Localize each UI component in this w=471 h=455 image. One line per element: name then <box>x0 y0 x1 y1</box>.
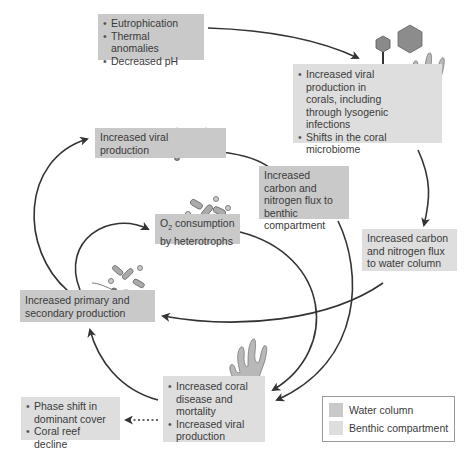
legend: Water column Benthic compartment <box>322 396 455 442</box>
legend-item-water: Water column <box>329 403 413 417</box>
viral-production-label: Increased viral production <box>100 131 172 156</box>
box-flux-benthic: Increased carbon and nitrogen flux to be… <box>259 166 349 219</box>
coral-disease-viral: Increased viral production <box>168 418 248 443</box>
arrow-coral-disease-to-primary <box>90 330 158 400</box>
arrow-drivers-to-coral <box>208 28 358 58</box>
box-drivers: Eutrophication Thermal anomalies Decreas… <box>98 14 204 60</box>
box-flux-water: Increased carbon and nitrogen flux to wa… <box>362 229 457 271</box>
box-coral-disease: Increased coral disease and mortality In… <box>163 376 265 442</box>
diagram-canvas: Eutrophication Thermal anomalies Decreas… <box>0 0 471 455</box>
primary-secondary-label: Increased primary and secondary producti… <box>25 294 150 319</box>
legend-swatch-benthic <box>329 421 343 435</box>
coral-response-viral: Increased viral production in corals, in… <box>298 68 396 131</box>
legend-label-benthic: Benthic compartment <box>349 422 448 434</box>
legend-swatch-water <box>329 403 343 417</box>
coral-disease-mortality: Increased coral disease and mortality <box>168 380 248 418</box>
box-primary-secondary: Increased primary and secondary producti… <box>20 290 155 322</box>
legend-label-water: Water column <box>349 404 413 416</box>
outcome-reef-decline: Coral reef decline <box>26 425 115 450</box>
box-outcome: Phase shift in dominant cover Coral reef… <box>21 397 120 440</box>
flux-benthic-label: Increased carbon and nitrogen flux to be… <box>264 169 344 232</box>
arrow-flux-benthic-to-coral-disease <box>277 221 352 400</box>
coral-response-microbiome: Shifts in the coral microbiome <box>298 131 396 156</box>
driver-thermal-anomalies: Thermal anomalies <box>103 30 199 55</box>
box-viral-production: Increased viral production <box>95 128 226 158</box>
arrow-primary-to-viral <box>34 139 87 291</box>
virus-capsid-icon <box>398 25 422 53</box>
box-o2-consumption: O2 consumption by heterotrophs <box>155 214 240 244</box>
box-coral-response: Increased viral production in corals, in… <box>293 64 442 143</box>
o2-consumption-label: O2 consumption by heterotrophs <box>160 217 235 247</box>
legend-item-benthic: Benthic compartment <box>329 421 448 435</box>
arrow-flux-water-to-primary <box>163 283 383 322</box>
flux-water-label: Increased carbon and nitrogen flux to wa… <box>367 232 452 270</box>
driver-decreased-ph: Decreased pH <box>103 55 199 68</box>
outcome-phase-shift: Phase shift in dominant cover <box>26 400 115 425</box>
driver-eutrophication: Eutrophication <box>103 17 199 30</box>
arrow-coral-to-flux-water <box>418 150 429 225</box>
